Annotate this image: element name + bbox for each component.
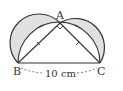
shaded-lune-ac: [60, 19, 104, 63]
shaded-lune-ab: [10, 14, 60, 63]
right-angle-mark: [57, 26, 63, 29]
label-a: A: [55, 9, 65, 22]
lune-diagram: A B C 10 cm: [0, 0, 123, 91]
dimension-label: 10 cm: [45, 68, 77, 79]
dimension-line-right: [77, 68, 97, 73]
tick-ac: [76, 42, 79, 45]
dimension-line-left: [21, 68, 42, 73]
label-c: C: [97, 65, 105, 78]
label-b: B: [13, 65, 21, 78]
